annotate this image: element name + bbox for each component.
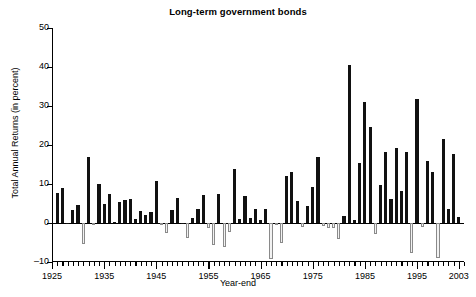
x-tick-minor xyxy=(276,262,277,266)
bar xyxy=(405,152,408,223)
x-tick-minor xyxy=(214,262,215,266)
x-tick-minor xyxy=(297,262,298,266)
x-tick-minor xyxy=(381,262,382,266)
x-tick-minor xyxy=(391,262,392,266)
bar xyxy=(442,139,445,223)
bar xyxy=(66,223,69,224)
x-tick-minor xyxy=(57,262,58,266)
bar xyxy=(426,161,429,223)
bar xyxy=(191,218,194,223)
bar xyxy=(327,223,330,228)
bar xyxy=(134,219,137,223)
x-tick-minor xyxy=(308,262,309,266)
x-tick-minor xyxy=(266,262,267,266)
bar xyxy=(452,154,455,223)
x-tick-minor xyxy=(255,262,256,266)
bar xyxy=(129,199,132,223)
y-tick-label: 40 xyxy=(39,61,49,71)
y-axis-label: Total Annual Returns (in percent) xyxy=(10,23,20,243)
bar xyxy=(421,223,424,227)
bar xyxy=(389,199,392,223)
bar xyxy=(358,163,361,223)
x-tick-minor xyxy=(135,262,136,266)
y-tick-label: 10 xyxy=(39,178,49,188)
x-tick-minor xyxy=(62,262,63,266)
bar xyxy=(170,210,173,223)
bar xyxy=(207,223,210,228)
x-tick-minor xyxy=(68,262,69,266)
y-tick-label: 30 xyxy=(39,100,49,110)
x-tick-minor xyxy=(386,262,387,266)
bar xyxy=(322,223,325,226)
bar xyxy=(212,223,215,245)
x-tick-minor xyxy=(240,262,241,266)
x-tick-minor xyxy=(182,262,183,266)
chart-figure: Long-term government bonds Total Annual … xyxy=(0,0,476,297)
x-tick-minor xyxy=(235,262,236,266)
plot-area: –1001020304050 1925193519451955196519751… xyxy=(52,28,464,262)
bar xyxy=(410,223,413,253)
x-tick-minor xyxy=(454,262,455,266)
x-tick-minor xyxy=(422,262,423,266)
x-tick-minor xyxy=(281,262,282,266)
x-tick-minor xyxy=(177,262,178,266)
chart-title: Long-term government bonds xyxy=(0,6,476,18)
x-tick-minor xyxy=(354,262,355,266)
x-tick-minor xyxy=(83,262,84,266)
x-tick-minor xyxy=(287,262,288,266)
bar xyxy=(301,223,304,227)
bar xyxy=(97,184,100,223)
bar xyxy=(217,194,220,223)
bar xyxy=(249,218,252,223)
bar xyxy=(223,223,226,247)
bar xyxy=(306,206,309,223)
bar xyxy=(76,205,79,223)
bar xyxy=(181,223,184,224)
bar xyxy=(264,209,267,223)
bar xyxy=(196,209,199,223)
x-tick-minor xyxy=(172,262,173,266)
bar xyxy=(108,194,111,223)
bar xyxy=(56,193,59,223)
bar xyxy=(269,223,272,259)
x-tick-minor xyxy=(115,262,116,266)
x-tick-minor xyxy=(360,262,361,266)
bar xyxy=(447,209,450,223)
x-tick-minor xyxy=(245,262,246,266)
x-tick-minor xyxy=(427,262,428,266)
bar xyxy=(431,172,434,223)
x-tick-minor xyxy=(125,262,126,266)
x-tick-minor xyxy=(302,262,303,266)
bar xyxy=(342,216,345,223)
bar xyxy=(160,223,163,225)
bar xyxy=(316,157,319,223)
bar xyxy=(395,148,398,223)
y-tick-label: 0 xyxy=(44,217,49,227)
y-axis-line xyxy=(52,28,53,262)
bar xyxy=(87,157,90,223)
x-tick-minor xyxy=(344,262,345,266)
x-tick-minor xyxy=(130,262,131,266)
x-tick-minor xyxy=(94,262,95,266)
bar xyxy=(61,188,64,223)
bar xyxy=(118,202,121,223)
x-tick-minor xyxy=(219,262,220,266)
bar xyxy=(259,220,262,223)
x-tick-minor xyxy=(375,262,376,266)
x-tick-minor xyxy=(464,262,465,266)
bar xyxy=(353,220,356,223)
bar xyxy=(290,172,293,223)
x-tick-minor xyxy=(73,262,74,266)
bar xyxy=(285,176,288,223)
bar xyxy=(144,215,147,223)
x-tick-minor xyxy=(438,262,439,266)
x-tick-minor xyxy=(89,262,90,266)
x-tick-minor xyxy=(292,262,293,266)
bar xyxy=(384,152,387,223)
x-tick-major xyxy=(52,262,53,269)
x-tick-minor xyxy=(448,262,449,266)
bar xyxy=(254,209,257,223)
bar xyxy=(332,223,335,228)
x-tick-major xyxy=(208,262,209,269)
x-tick-minor xyxy=(99,262,100,266)
